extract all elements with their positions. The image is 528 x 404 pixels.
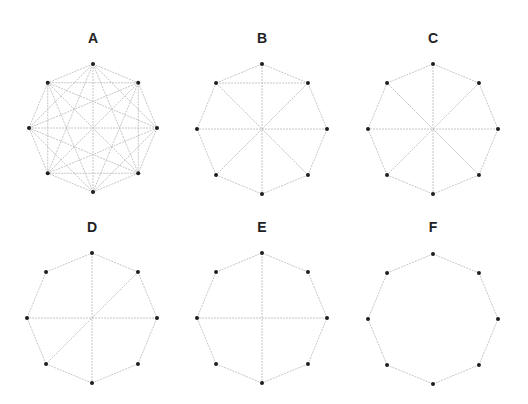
edge-top-top-right [433, 254, 479, 273]
edge-bottom-left-left [197, 318, 216, 364]
graph-b: B [195, 30, 329, 196]
edge-bottom-right-bottom [262, 364, 308, 383]
edge-right-bottom-right [308, 129, 327, 175]
edge-right-bottom-right [479, 319, 498, 365]
edge-bottom-bottom-left [48, 173, 93, 192]
vertex-bottom-right [306, 362, 310, 366]
vertex-top-left [214, 270, 218, 274]
graph-a: A [27, 30, 159, 194]
edge-bottom-right-bottom [262, 175, 308, 194]
vertex-top-left [385, 271, 389, 275]
vertex-right [155, 126, 159, 130]
edge-right-top-left [48, 83, 157, 128]
vertex-bottom [431, 382, 435, 386]
vertex-top-right [136, 81, 140, 85]
graph-d: D [25, 219, 159, 385]
edge-top-left-top [387, 254, 433, 273]
vertex-bottom-left [44, 362, 48, 366]
edge-top-right-right [479, 83, 498, 129]
vertex-bottom-right [477, 173, 481, 177]
vertex-top [90, 251, 94, 255]
graph-c-label: C [428, 30, 438, 46]
vertex-bottom-left [385, 363, 389, 367]
vertex-top [260, 62, 264, 66]
vertex-top-right [477, 81, 481, 85]
edge-bottom-right-bottom [433, 365, 479, 384]
edge-bottom-bottom-left [216, 364, 262, 383]
edge-top-left-top [387, 64, 433, 83]
edge-bottom-left-left [368, 129, 387, 175]
edge-left-top-left [197, 272, 216, 318]
vertex-bottom-right [136, 362, 140, 366]
edge-top-left-top [46, 253, 92, 272]
vertex-left [27, 126, 31, 130]
edge-bottom-bottom-left [387, 365, 433, 384]
edge-bottom-bottom-left [46, 364, 92, 383]
vertex-bottom-right [136, 171, 140, 175]
edge-bottom-bottom-left [216, 175, 262, 194]
edge-top-right-bottom [93, 83, 138, 192]
edge-top-top-right [262, 64, 308, 83]
edge-bottom-right-bottom [92, 364, 138, 383]
vertex-left [366, 317, 370, 321]
edge-right-bottom-left [48, 128, 157, 173]
edge-top-bottom-left [48, 64, 93, 173]
vertex-right [155, 316, 159, 320]
vertex-top-left [44, 270, 48, 274]
vertex-right [325, 127, 329, 131]
graph-e-label: E [257, 219, 266, 235]
graph-c: C [366, 30, 500, 196]
vertex-bottom-left [214, 173, 218, 177]
vertex-top-right [306, 270, 310, 274]
vertex-bottom-left [385, 173, 389, 177]
edge-left-top-left [368, 273, 387, 319]
graph-f-vertices [366, 252, 500, 386]
edge-top-right-right [308, 272, 327, 318]
vertex-left [195, 316, 199, 320]
edge-bottom-right-bottom [433, 175, 479, 194]
vertex-bottom [90, 381, 94, 385]
graph-f: F [366, 219, 500, 386]
vertex-bottom-right [477, 363, 481, 367]
vertex-bottom-left [214, 362, 218, 366]
edge-left-top-left [197, 83, 216, 129]
edge-right-bottom-right [479, 129, 498, 175]
vertex-left [195, 127, 199, 131]
edge-top-bottom-right [93, 64, 138, 173]
edge-left-top-left [368, 83, 387, 129]
vertex-left [25, 316, 29, 320]
edge-top-top-right [93, 64, 138, 83]
graph-a-label: A [88, 30, 98, 46]
edge-bottom-top-left [48, 83, 93, 192]
edge-bottom-left-left [197, 129, 216, 175]
edge-top-right-right [138, 83, 157, 128]
vertex-bottom [431, 192, 435, 196]
edge-bottom-left-left [368, 319, 387, 365]
edge-top-right-right [479, 273, 498, 319]
edge-right-bottom-right [138, 128, 157, 173]
graph-f-label: F [429, 219, 438, 235]
vertex-top [431, 62, 435, 66]
edge-top-left-top [216, 64, 262, 83]
edge-top-right-right [138, 272, 157, 318]
vertex-bottom-right [306, 173, 310, 177]
vertex-top [260, 251, 264, 255]
edge-bottom-bottom-left [387, 175, 433, 194]
vertex-top-right [136, 270, 140, 274]
vertex-bottom [91, 190, 95, 194]
vertex-right [325, 316, 329, 320]
vertex-top-left [46, 81, 50, 85]
vertex-top-left [385, 81, 389, 85]
vertex-right [496, 317, 500, 321]
edge-right-bottom-right [138, 318, 157, 364]
vertex-right [496, 127, 500, 131]
edge-bottom-right-left [29, 128, 138, 173]
vertex-bottom-left [46, 171, 50, 175]
vertex-top [91, 62, 95, 66]
edge-right-bottom-right [308, 318, 327, 364]
edge-left-top-left [27, 272, 46, 318]
edge-top-top-left [48, 64, 93, 83]
edge-top-left-top [216, 253, 262, 272]
graph-figure: A B C D E F [0, 0, 528, 404]
graph-e: E [195, 219, 329, 385]
